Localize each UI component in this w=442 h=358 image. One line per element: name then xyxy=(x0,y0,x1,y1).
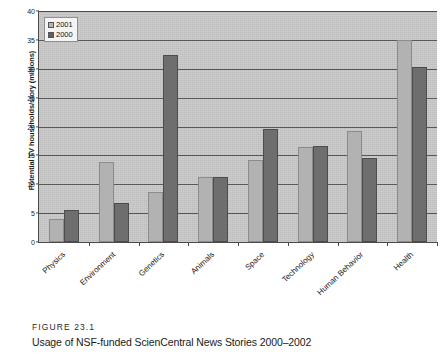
x-axis-tick-label-text: Animals xyxy=(189,250,216,276)
x-axis-labels: PhysicsEnvironmentGeneticsAnimalsSpaceTe… xyxy=(38,248,436,312)
figure-container: Potential TV households/story (millions)… xyxy=(0,0,442,358)
bar-group xyxy=(387,11,437,242)
y-axis-tick-label: 30 xyxy=(27,65,35,72)
x-axis-label-cell: Health xyxy=(386,248,436,312)
bar-group xyxy=(288,11,338,242)
bar-2001-technology xyxy=(298,147,313,242)
legend-swatch-icon-2001 xyxy=(48,22,54,28)
bar-2000-human-behavior xyxy=(362,158,377,242)
bar-chart: Potential TV households/story (millions)… xyxy=(0,0,442,312)
bar-group xyxy=(238,11,288,242)
bar-2001-environment xyxy=(99,162,114,242)
x-axis-tick-mark xyxy=(387,242,388,246)
legend-label-2000: 2000 xyxy=(56,30,73,39)
y-axis-tick-label: 5 xyxy=(31,210,35,217)
legend-label-2001: 2001 xyxy=(56,20,73,29)
bar-2000-genetics xyxy=(163,55,178,242)
bar-group xyxy=(338,11,388,242)
x-axis-tick-label-text: Health xyxy=(392,250,415,272)
x-axis-label-cell: Human Behavior xyxy=(337,248,387,312)
legend-swatch-icon-2000 xyxy=(48,32,54,38)
bar-2000-animals xyxy=(213,177,228,242)
bar-2001-physics xyxy=(49,219,64,242)
y-axis-tick-label: 0 xyxy=(31,239,35,246)
legend-item-2001: 2001 xyxy=(48,20,73,29)
y-axis-tick-label: 40 xyxy=(27,8,35,15)
chart-legend: 2001 2000 xyxy=(44,17,78,42)
x-axis-tick-mark xyxy=(139,242,140,246)
y-axis-tick-label: 25 xyxy=(27,94,35,101)
x-axis-tick-label-text: Physics xyxy=(41,250,67,275)
x-axis-label-cell: Environment xyxy=(88,248,138,312)
bar-2000-space xyxy=(263,129,278,242)
figure-number: FIGURE 23.1 xyxy=(32,322,432,332)
x-axis-label-cell: Space xyxy=(237,248,287,312)
bar-2000-health xyxy=(412,67,427,242)
bar-2000-technology xyxy=(313,146,328,242)
bar-2001-genetics xyxy=(148,192,163,242)
x-axis-tick-mark xyxy=(188,242,189,246)
y-axis-tick-label: 15 xyxy=(27,152,35,159)
y-axis-tick-label: 20 xyxy=(27,123,35,130)
plot-area: 0510152025303540 xyxy=(38,11,437,243)
x-axis-label-cell: Genetics xyxy=(138,248,188,312)
x-axis-tick-mark xyxy=(288,242,289,246)
bar-2001-animals xyxy=(198,177,213,242)
bar-2001-human-behavior xyxy=(347,131,362,242)
bar-2001-space xyxy=(248,160,263,242)
bar-series-layer xyxy=(39,11,437,242)
x-axis-label-cell: Animals xyxy=(187,248,237,312)
x-axis-tick-label-text: Genetics xyxy=(137,250,166,278)
x-axis-tick-label-text: Space xyxy=(243,250,266,272)
y-axis-tick-label: 10 xyxy=(27,181,35,188)
figure-caption: FIGURE 23.1 Usage of NSF-funded ScienCen… xyxy=(32,322,432,348)
bar-group xyxy=(188,11,238,242)
bar-group xyxy=(139,11,189,242)
x-axis-tick-mark xyxy=(338,242,339,246)
legend-item-2000: 2000 xyxy=(48,30,73,39)
x-axis-tick-mark xyxy=(437,242,438,246)
y-axis-title: Potential TV households/story (millions) xyxy=(27,21,36,221)
bar-group xyxy=(89,11,139,242)
x-axis-tick-mark xyxy=(238,242,239,246)
bar-group xyxy=(39,11,89,242)
figure-title: Usage of NSF-funded ScienCentral News St… xyxy=(32,336,432,348)
x-axis-tick-mark xyxy=(89,242,90,246)
y-axis-tick-label: 35 xyxy=(27,36,35,43)
